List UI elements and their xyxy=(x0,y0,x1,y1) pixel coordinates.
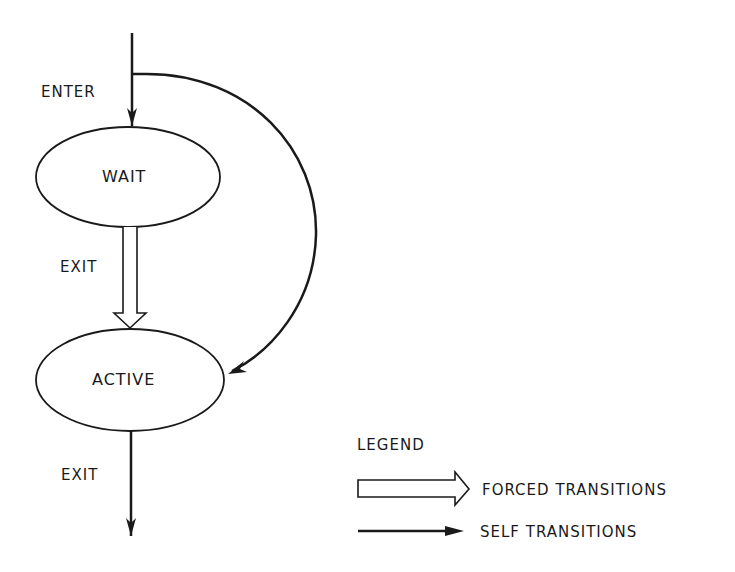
legend-forced-label: FORCED TRANSITIONS xyxy=(482,481,667,499)
active-state-label: ACTIVE xyxy=(92,370,155,389)
legend-self-label: SELF TRANSITIONS xyxy=(480,523,637,541)
legend-hollow-arrow-icon xyxy=(358,472,469,505)
forced-transition-arrow xyxy=(114,227,146,328)
legend-solid-arrow-icon xyxy=(358,526,464,536)
exit-arrow xyxy=(126,431,136,536)
legend-title: LEGEND xyxy=(357,436,425,454)
state-diagram: ENTER WAIT EXIT ACTIVE EXIT LEGEND FORCE… xyxy=(0,0,735,572)
enter-label: ENTER xyxy=(41,83,96,101)
active-exit-label: EXIT xyxy=(61,466,98,484)
wait-exit-label: EXIT xyxy=(60,258,97,276)
enter-arrow xyxy=(127,33,137,126)
wait-state-label: WAIT xyxy=(102,167,146,186)
